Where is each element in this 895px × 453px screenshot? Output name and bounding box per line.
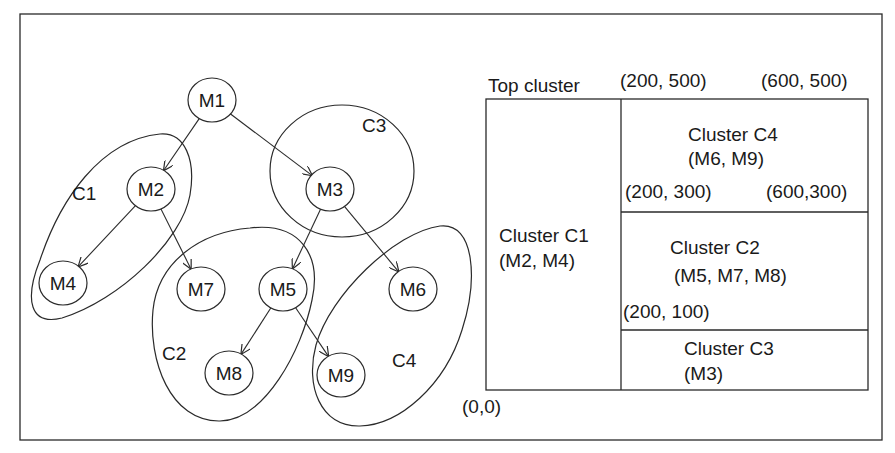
- node-label: M5: [270, 279, 296, 300]
- node-m5: M5: [259, 267, 307, 311]
- node-m7: M7: [177, 267, 225, 311]
- node-m1: M1: [188, 78, 236, 122]
- region-c3-title: Cluster C3: [684, 338, 774, 360]
- node-m6: M6: [389, 267, 437, 311]
- region-c4-members: (M6, M9): [688, 148, 764, 170]
- cluster-label-c2: C2: [162, 343, 186, 364]
- region-c1-members: (M2, M4): [499, 250, 575, 272]
- edge-m3-m6: [344, 206, 398, 271]
- node-label: M8: [216, 363, 242, 384]
- node-label: M3: [317, 179, 343, 200]
- corner-top-left: (200, 500): [620, 70, 707, 92]
- edge-m2-m4: [79, 205, 136, 266]
- node-m4: M4: [39, 261, 87, 305]
- edge-m1-m2: [164, 118, 200, 170]
- corner-low-left: (200, 100): [623, 301, 710, 323]
- cluster-label-c3: C3: [362, 115, 386, 136]
- diagram-figure: M1M2M3M4M7M5M6M8M9 C1C2C3C4 Top cluster …: [0, 0, 895, 453]
- edge-m2-m7: [161, 209, 191, 269]
- corner-top-right: (600, 500): [761, 70, 848, 92]
- edge-m5-m8: [241, 308, 271, 354]
- node-m2: M2: [127, 167, 175, 211]
- edge-m5-m9: [295, 307, 328, 356]
- node-label: M9: [328, 365, 354, 386]
- node-m3: M3: [306, 167, 354, 211]
- corner-mid-right: (600,300): [766, 181, 847, 203]
- cluster-labels-layer: C1C2C3C4: [72, 115, 417, 371]
- region-c3-members: (M3): [684, 363, 723, 385]
- origin-label: (0,0): [462, 396, 501, 418]
- region-c2-members: (M5, M7, M8): [674, 265, 787, 287]
- diagram-canvas: M1M2M3M4M7M5M6M8M9 C1C2C3C4: [0, 0, 895, 453]
- cluster-label-c1: C1: [72, 183, 96, 204]
- corner-mid-left: (200, 300): [625, 181, 712, 203]
- node-m8: M8: [205, 351, 253, 395]
- region-c1-title: Cluster C1: [499, 225, 589, 247]
- edges-layer: [79, 113, 399, 356]
- region-c4-title: Cluster C4: [688, 124, 778, 146]
- node-label: M2: [138, 179, 164, 200]
- node-label: M7: [188, 279, 214, 300]
- node-label: M4: [50, 273, 77, 294]
- top-cluster-label: Top cluster: [488, 75, 580, 97]
- cluster-label-c4: C4: [392, 350, 417, 371]
- region-c2-title: Cluster C2: [670, 237, 760, 259]
- node-m9: M9: [317, 353, 365, 397]
- node-label: M1: [199, 90, 225, 111]
- node-label: M6: [400, 279, 426, 300]
